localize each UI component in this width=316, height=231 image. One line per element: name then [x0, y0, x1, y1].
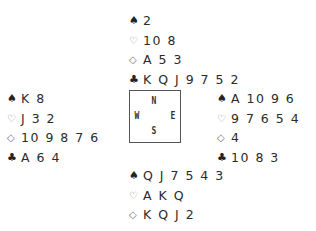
south-spades: ♠Q J 7 5 4 3 [129, 166, 225, 186]
compass-west-label: W [135, 110, 140, 121]
north-diamonds: ◇A 5 3 [129, 50, 240, 70]
west-hearts: ♡J 3 2 [7, 109, 100, 129]
diamond-icon: ◇ [129, 205, 143, 225]
east-clubs: ♣10 8 3 [217, 148, 300, 168]
spade-icon: ♠ [129, 11, 143, 31]
west-spades: ♠K 8 [7, 89, 100, 109]
west-clubs: ♣A 6 4 [7, 148, 100, 168]
spade-icon: ♠ [217, 89, 231, 109]
diamond-icon: ◇ [7, 128, 21, 148]
east-diamonds: ◇4 [217, 128, 300, 148]
club-icon: ♣ [7, 148, 21, 168]
east-spades: ♠A 10 9 6 [217, 89, 300, 109]
south-hearts: ♡A K Q [129, 186, 225, 206]
heart-icon: ♡ [129, 31, 143, 51]
club-icon: ♣ [129, 70, 143, 90]
diamond-icon: ◇ [129, 50, 143, 70]
compass-box: N W E S [129, 90, 181, 143]
diamond-icon: ◇ [217, 128, 231, 148]
spade-icon: ♠ [7, 89, 21, 109]
compass-east-label: E [171, 110, 176, 121]
north-spades: ♠2 [129, 11, 240, 31]
west-diamonds: ◇10 9 8 7 6 [7, 128, 100, 148]
north-hearts: ♡10 8 [129, 31, 240, 51]
compass-north-label: N [152, 95, 157, 106]
east-hand: ♠A 10 9 6 ♡9 7 6 5 4 ◇4 ♣10 8 3 [217, 89, 300, 167]
compass-south-label: S [152, 125, 157, 136]
east-hearts: ♡9 7 6 5 4 [217, 109, 300, 129]
west-hand: ♠K 8 ♡J 3 2 ◇10 9 8 7 6 ♣A 6 4 [7, 89, 100, 167]
north-hand: ♠2 ♡10 8 ◇A 5 3 ♣K Q J 9 7 5 2 [129, 11, 240, 89]
heart-icon: ♡ [129, 186, 143, 206]
south-hand: ♠Q J 7 5 4 3 ♡A K Q ◇K Q J 2 ♣— [129, 166, 225, 230]
heart-icon: ♡ [217, 109, 231, 129]
south-clubs: ♣— [129, 225, 225, 231]
south-diamonds: ◇K Q J 2 [129, 205, 225, 225]
heart-icon: ♡ [7, 109, 21, 129]
club-icon: ♣ [129, 225, 143, 231]
north-clubs: ♣K Q J 9 7 5 2 [129, 70, 240, 90]
club-icon: ♣ [217, 148, 231, 168]
spade-icon: ♠ [129, 166, 143, 186]
